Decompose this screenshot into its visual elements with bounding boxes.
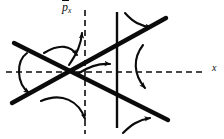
vertical-axis-label: px <box>62 1 71 15</box>
flow-arrow-topright-down <box>125 13 151 27</box>
separatrix-rising <box>12 18 166 103</box>
phase-portrait-canvas <box>0 0 224 139</box>
flow-arrow-left-inward <box>19 53 29 93</box>
separatrix-falling <box>14 43 168 120</box>
flow-arrow-down-center <box>41 97 85 119</box>
vertical-axis-label-subscript: x <box>68 6 71 15</box>
horizontal-axis-label: x <box>212 63 216 73</box>
vertical-axis-label-symbol: p <box>62 1 68 13</box>
phase-portrait-figure: px x <box>0 0 224 139</box>
flow-arrow-right-down <box>136 45 145 88</box>
flow-arrow-upper-left <box>44 47 77 55</box>
flow-arrow-bottomright-up <box>123 118 150 133</box>
